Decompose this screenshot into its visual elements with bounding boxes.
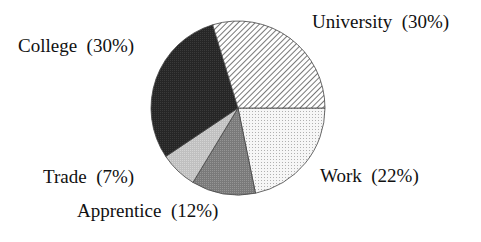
label-college: College (30%) bbox=[18, 36, 134, 55]
label-apprentice: Apprentice (12%) bbox=[77, 201, 218, 220]
label-trade: Trade (7%) bbox=[43, 167, 134, 186]
label-work: Work (22%) bbox=[320, 166, 419, 185]
label-university: University (30%) bbox=[312, 12, 449, 31]
